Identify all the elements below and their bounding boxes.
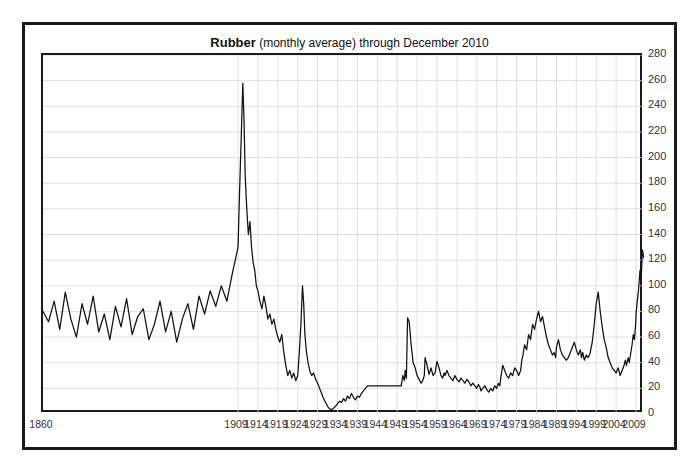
y-axis-tick-label: 80	[648, 304, 660, 315]
y-axis-labels: 020406080100120140160180200220240260280	[648, 53, 694, 412]
y-axis-tick-label: 260	[648, 73, 666, 84]
chart-title-subtitle: (monthly average) through December 2010	[256, 36, 489, 50]
y-axis-tick-label: 280	[648, 48, 666, 59]
plot-area	[41, 53, 642, 412]
y-axis-tick-label: 60	[648, 330, 660, 341]
x-axis-tick-label: 1860	[29, 417, 52, 431]
y-axis-tick-label: 220	[648, 124, 666, 135]
x-axis-labels: 1860190919141919192419291934193919441949…	[0, 417, 699, 437]
y-axis-tick-label: 120	[648, 253, 666, 264]
y-axis-tick-label: 180	[648, 176, 666, 187]
horizontal-gridlines	[43, 55, 644, 388]
x-axis-tick-label: 2009	[622, 417, 645, 431]
chart-title: Rubber (monthly average) through Decembe…	[25, 35, 674, 50]
y-axis-tick-label: 0	[648, 407, 654, 418]
y-axis-tick-label: 240	[648, 99, 666, 110]
y-axis-tick-label: 100	[648, 278, 666, 289]
y-axis-tick-label: 160	[648, 201, 666, 212]
y-axis-tick-label: 40	[648, 355, 660, 366]
price-line-chart	[43, 55, 644, 414]
y-axis-tick-label: 140	[648, 227, 666, 238]
y-axis-tick-label: 200	[648, 150, 666, 161]
chart-title-commodity: Rubber	[210, 35, 256, 50]
y-axis-tick-label: 20	[648, 381, 660, 392]
